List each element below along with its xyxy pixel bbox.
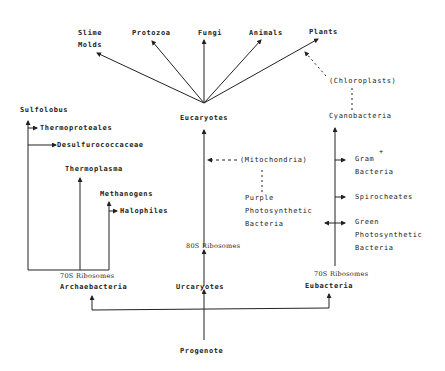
label-mitochondria: (Mitochondria) [240, 154, 307, 166]
node-progenote: Progenote [180, 345, 223, 357]
label-urcaryote-ribosomes: 80S Ribosomes [186, 240, 240, 252]
label-methanogens: Methanogens [100, 188, 153, 200]
label-protozoa: Protozoa [132, 27, 171, 39]
label-spirocheates: Spirocheates [355, 191, 413, 203]
label-thermoproteales: Thermoproteales [40, 122, 112, 134]
label-slime-molds-line1: Slime [78, 27, 102, 39]
label-thermoplasma: Thermoplasma [65, 163, 123, 175]
label-gram-line1: Gram [355, 153, 374, 165]
label-animals: Animals [249, 27, 283, 39]
label-eubacteria-ribosomes: 70S Ribosomes [314, 268, 368, 280]
label-halophiles: Halophiles [120, 205, 168, 217]
node-eubacteria: Eubacteria [305, 280, 353, 292]
node-archaebacteria: Archaebacteria [60, 281, 127, 293]
phylogenetic-tree-diagram: Slime Molds Protozoa Fungi Animals Plant… [0, 0, 445, 371]
label-desulfurococcaceae: Desulfurococcaceae [57, 139, 144, 151]
tree-lines [0, 0, 445, 371]
label-fungi: Fungi [198, 27, 222, 39]
label-chloroplasts: (Chloroplasts) [329, 75, 396, 87]
label-purple-line2: Photosynthetic [245, 205, 312, 217]
label-sulfolobus: Sulfolobus [20, 104, 68, 116]
label-purple-line3: Bacteria [245, 218, 284, 230]
node-eucaryotes: Eucaryotes [180, 112, 228, 124]
label-slime-molds-line2: Molds [78, 39, 102, 51]
label-green-line3: Bacteria [355, 242, 394, 254]
node-urcaryotes: Urcaryotes [176, 281, 224, 293]
label-purple-line1: Purple [245, 192, 274, 204]
label-green-line1: Green [355, 216, 379, 228]
label-gram-line2: Bacteria [355, 166, 394, 178]
label-green-line2: Photosynthetic [355, 229, 422, 241]
label-plants: Plants [309, 26, 338, 38]
label-gram-plus: + [379, 148, 383, 156]
node-cyanobacteria: Cyanobacteria [329, 110, 392, 122]
